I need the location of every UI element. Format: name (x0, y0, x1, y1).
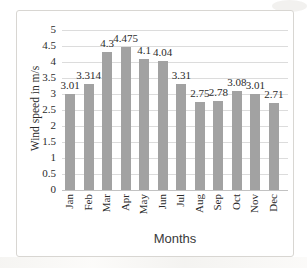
x-tick-label-sep: Sep (211, 194, 225, 234)
x-axis-title: Months (95, 231, 255, 246)
bar-dec (269, 103, 279, 190)
x-axis-line (62, 190, 288, 191)
bar-value-label-jul: 3.31 (159, 69, 203, 81)
bar-jan (65, 94, 75, 190)
bar-sep (213, 101, 223, 190)
bar-may (139, 59, 149, 190)
bar-mar (102, 52, 112, 190)
bar-feb (84, 84, 94, 190)
x-tick-label-oct: Oct (230, 194, 244, 234)
x-tick-label-nov: Nov (248, 194, 262, 234)
x-tick-label-feb: Feb (82, 194, 96, 234)
bar-jul (176, 84, 186, 190)
bar-aug (195, 102, 205, 190)
bar-oct (232, 91, 242, 190)
gridline (62, 30, 288, 31)
x-tick-label-mar: Mar (100, 194, 114, 234)
bar-value-label-jun: 4.04 (141, 46, 185, 58)
x-tick-label-jan: Jan (63, 194, 77, 234)
bar-value-label-apr: 4.475 (104, 32, 148, 44)
bar-apr (121, 47, 131, 190)
x-tick-label-jun: Jun (156, 194, 170, 234)
gridline (62, 62, 288, 63)
wind-speed-bar-chart-figure: 00.511.522.533.544.553.01Jan3.314Feb4.3M… (0, 0, 307, 268)
x-tick-label-may: May (137, 194, 151, 234)
x-tick-label-aug: Aug (193, 194, 207, 234)
bar-value-label-dec: 2.71 (252, 88, 296, 100)
x-tick-label-dec: Dec (267, 194, 281, 234)
y-axis-title: Wind speed in m/s (29, 24, 44, 194)
x-tick-label-jul: Jul (174, 194, 188, 234)
scan-shadow-artifact (0, 257, 307, 268)
bar-nov (250, 94, 260, 190)
x-tick-label-apr: Apr (119, 194, 133, 234)
